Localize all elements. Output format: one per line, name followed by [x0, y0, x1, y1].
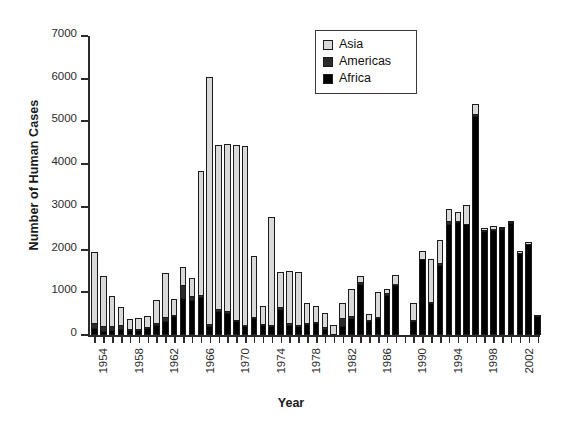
bar-1956 — [109, 296, 116, 335]
bar-1963 — [171, 299, 178, 335]
bar-segment-americas-1974 — [268, 325, 275, 327]
x-tick-1966 — [201, 336, 203, 343]
bar-2004 — [534, 315, 541, 335]
bar-segment-africa-1961 — [153, 325, 160, 335]
x-tick-1967 — [210, 336, 212, 343]
bar-segment-africa-1965 — [189, 300, 196, 335]
bar-segment-asia-1987 — [384, 289, 391, 293]
x-tick-label-1986: 1986 — [382, 348, 394, 374]
x-tick-label-1962: 1962 — [169, 348, 181, 374]
bar-segment-africa-1979 — [313, 323, 320, 335]
bar-segment-africa-1959 — [135, 330, 142, 335]
bar-segment-asia-1997 — [472, 104, 479, 114]
x-tick-2003 — [529, 336, 531, 343]
bar-1978 — [304, 303, 311, 335]
bar-1964 — [180, 267, 187, 335]
y-axis-line — [88, 36, 90, 336]
bar-1954 — [91, 252, 98, 335]
x-tick-1992 — [431, 336, 433, 343]
x-tick-1996 — [467, 336, 469, 343]
bar-1998 — [481, 228, 488, 335]
bar-1973 — [260, 306, 267, 335]
x-axis-title: Year — [0, 396, 582, 410]
bar-segment-americas-1966 — [198, 295, 205, 296]
bar-1959 — [135, 318, 142, 335]
bar-segment-asia-1981 — [330, 325, 337, 335]
bar-segment-africa-1975 — [277, 309, 284, 335]
x-tick-1959 — [139, 336, 141, 343]
bar-segment-americas-1993 — [437, 263, 444, 265]
bar-segment-africa-1993 — [437, 265, 444, 335]
bar-segment-asia-1982 — [339, 303, 346, 318]
bar-1986 — [375, 292, 382, 335]
bar-1970 — [233, 145, 240, 335]
x-tick-label-1974: 1974 — [276, 348, 288, 374]
x-tick-2002 — [520, 336, 522, 343]
bar-segment-africa-2003 — [525, 244, 532, 335]
bar-segment-asia-1999 — [490, 226, 497, 229]
x-tick-2001 — [511, 336, 513, 343]
bar-segment-africa-1963 — [171, 316, 178, 335]
bar-segment-americas-1987 — [384, 293, 391, 295]
bar-segment-asia-1992 — [428, 259, 435, 302]
bar-segment-africa-1978 — [304, 324, 311, 335]
bar-segment-asia-1995 — [455, 212, 462, 221]
bar-segment-africa-1983 — [348, 318, 355, 335]
bar-segment-africa-1964 — [180, 298, 187, 335]
x-tick-1982 — [343, 336, 345, 343]
bar-segment-africa-1968 — [215, 311, 222, 335]
bar-segment-americas-1997 — [472, 114, 479, 116]
bar-segment-americas-1995 — [455, 221, 462, 222]
x-tick-1963 — [174, 336, 176, 343]
y-tick-label-6000: 6000 — [51, 70, 77, 82]
bar-segment-americas-1992 — [428, 302, 435, 303]
bar-segment-americas-1976 — [286, 323, 293, 324]
bar-segment-africa-1969 — [224, 313, 231, 335]
x-tick-1962 — [165, 336, 167, 343]
bar-segment-asia-1976 — [286, 271, 293, 324]
bar-1975 — [277, 272, 284, 335]
bar-1982 — [339, 303, 346, 335]
bar-segment-africa-1995 — [455, 222, 462, 335]
bar-segment-americas-1979 — [313, 322, 320, 323]
bar-segment-americas-1969 — [224, 311, 231, 313]
y-tick-1000: 1000 — [81, 291, 88, 293]
bar-segment-asia-1966 — [198, 171, 205, 295]
bar-segment-asia-1988 — [392, 275, 399, 284]
x-tick-1970 — [236, 336, 238, 343]
bar-segment-asia-2002 — [517, 251, 524, 252]
x-tick-1961 — [156, 336, 158, 343]
y-tick-6000: 6000 — [81, 78, 88, 80]
bar-segment-africa-1966 — [198, 297, 205, 335]
bar-segment-americas-1986 — [375, 317, 382, 318]
bar-segment-americas-1975 — [277, 307, 284, 309]
bar-2001 — [508, 221, 515, 335]
plot-area: 01000200030004000500060007000 1954195819… — [88, 36, 540, 335]
x-tick-1974 — [272, 336, 274, 343]
bar-1999 — [490, 226, 497, 335]
x-tick-label-2002: 2002 — [524, 348, 536, 374]
bar-segment-asia-1969 — [224, 144, 231, 311]
bar-segment-africa-1976 — [286, 325, 293, 335]
x-tick-1999 — [493, 336, 495, 343]
bar-2003 — [525, 243, 532, 335]
y-tick-label-5000: 5000 — [51, 112, 77, 124]
bar-segment-asia-1955 — [100, 276, 107, 327]
x-tick-1973 — [263, 336, 265, 343]
bar-segment-asia-1968 — [215, 145, 222, 310]
x-tick-1957 — [121, 336, 123, 343]
legend-label-asia: Asia — [339, 38, 363, 51]
x-tick-1960 — [148, 336, 150, 343]
bar-segment-africa-1999 — [490, 230, 497, 336]
bar-segment-asia-1984 — [357, 276, 364, 282]
bar-segment-asia-1991 — [419, 251, 426, 259]
x-tick-label-1954: 1954 — [98, 348, 110, 374]
x-tick-1994 — [449, 336, 451, 343]
bar-1955 — [100, 276, 107, 335]
y-tick-label-7000: 7000 — [51, 27, 77, 39]
bar-1957 — [118, 307, 125, 335]
bar-segment-africa-1973 — [260, 325, 267, 335]
bar-segment-asia-1963 — [171, 299, 178, 315]
bar-segment-africa-1992 — [428, 303, 435, 335]
bar-segment-asia-1979 — [313, 306, 320, 322]
